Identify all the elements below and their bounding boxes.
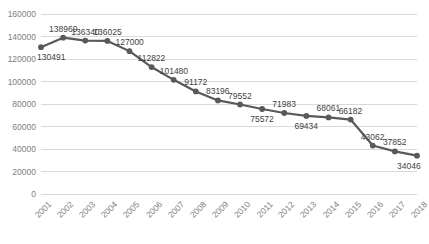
data-point-label: 101480 (160, 67, 188, 76)
data-point-label: 136025 (93, 28, 121, 37)
data-point-label: 83196 (206, 87, 230, 96)
data-point-marker (149, 64, 155, 70)
y-axis-tick-label: 20000 (0, 168, 36, 177)
data-point-marker (38, 44, 44, 50)
data-point-label: 34046 (397, 162, 421, 171)
data-point-marker (171, 77, 177, 83)
data-point-label: 66182 (339, 107, 363, 116)
data-point-label: 112822 (138, 54, 166, 63)
data-point-label: 75572 (250, 115, 274, 124)
data-point-label: 69434 (294, 122, 318, 131)
data-point-marker (259, 106, 265, 112)
data-point-label: 37852 (383, 138, 407, 147)
data-point-marker (215, 98, 221, 104)
data-point-marker (304, 113, 310, 119)
data-point-marker (127, 48, 133, 54)
data-point-label: 43062 (361, 133, 385, 142)
data-point-marker (193, 89, 199, 95)
y-axis-tick-label: 100000 (0, 78, 36, 87)
data-point-marker (82, 38, 88, 44)
data-point-marker (104, 38, 110, 44)
y-axis-tick-label: 80000 (0, 100, 36, 109)
y-axis-tick-label: 0 (0, 190, 36, 199)
data-point-marker (414, 153, 420, 159)
y-axis-tick-label: 40000 (0, 145, 36, 154)
data-point-label: 91172 (184, 78, 207, 87)
data-point-label: 79552 (228, 92, 252, 101)
data-point-marker (281, 110, 287, 116)
data-point-label: 127000 (115, 38, 143, 47)
data-point-marker (326, 115, 332, 121)
data-point-label: 130491 (37, 53, 65, 62)
data-point-marker (237, 102, 243, 108)
y-axis-tick-label: 120000 (0, 55, 36, 64)
y-axis-tick-label: 140000 (0, 33, 36, 42)
data-point-marker (370, 143, 376, 149)
data-point-marker (392, 149, 398, 155)
y-axis-tick-label: 160000 (0, 10, 36, 19)
data-point-marker (348, 117, 354, 123)
data-point-label: 71983 (272, 100, 296, 109)
y-axis-tick-label: 60000 (0, 123, 36, 132)
data-point-marker (60, 35, 66, 41)
data-point-label: 68061 (317, 104, 341, 113)
